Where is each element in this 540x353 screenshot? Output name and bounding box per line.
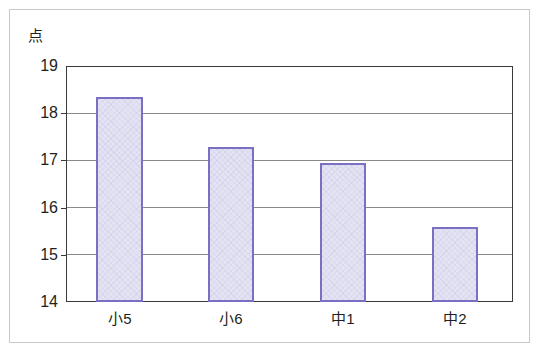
y-tick-label: 17 xyxy=(24,152,58,168)
x-tick-label-2: 中1 xyxy=(299,310,387,328)
x-axis-tick-labels: 小5 小6 中1 中2 xyxy=(66,310,513,340)
y-tick-label: 18 xyxy=(24,105,58,121)
bar-grade-2[interactable] xyxy=(320,163,366,302)
y-tick-label: 14 xyxy=(24,294,58,310)
chart-page: 点 19 18 17 16 15 14 小5 小6 中1 中2 xyxy=(0,0,540,353)
y-axis-tick-labels: 19 18 17 16 15 14 xyxy=(0,66,58,302)
bar-grade-1[interactable] xyxy=(208,147,254,302)
bar-grade-0[interactable] xyxy=(96,97,143,302)
y-tick-label: 16 xyxy=(24,200,58,216)
bars-layer xyxy=(66,66,513,302)
y-tick-label: 15 xyxy=(24,247,58,263)
x-tick-label-3: 中2 xyxy=(411,310,499,328)
y-axis-unit-label: 点 xyxy=(28,28,44,43)
bar-grade-3[interactable] xyxy=(432,227,478,302)
x-tick-label-0: 小5 xyxy=(76,310,164,328)
y-tick-label: 19 xyxy=(24,58,58,74)
x-tick-label-1: 小6 xyxy=(187,310,275,328)
